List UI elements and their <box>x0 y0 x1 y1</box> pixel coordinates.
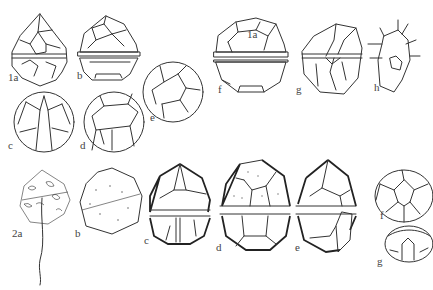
drawing-2e <box>296 160 356 252</box>
drawing-2b <box>80 168 142 234</box>
label-1h: h <box>374 82 380 93</box>
label-2e: e <box>295 242 300 253</box>
label-2g: g <box>377 256 383 267</box>
label-1e: e <box>150 112 155 123</box>
drawing-1g <box>302 24 362 94</box>
label-1f: f <box>218 84 222 95</box>
label-2a: 2a <box>12 228 22 239</box>
label-2c: c <box>144 235 149 246</box>
drawing-1d <box>84 92 144 152</box>
label-1f-plate: 1a <box>247 29 257 40</box>
drawing-1c <box>14 92 74 152</box>
figure-plate: 1a b c d e f 1a g h 2a b c d e f g <box>0 0 433 290</box>
label-2b: b <box>75 228 81 239</box>
label-1g: g <box>296 84 302 95</box>
drawing-1a <box>12 14 67 86</box>
label-1b: b <box>77 70 83 81</box>
drawing-2a <box>20 170 70 285</box>
label-1d: d <box>80 140 86 151</box>
drawing-1b <box>78 16 140 80</box>
drawing-2c <box>150 164 210 244</box>
label-1a: 1a <box>8 72 18 83</box>
label-1c: c <box>8 140 13 151</box>
label-2d: d <box>216 242 222 253</box>
drawing-2g <box>385 226 433 262</box>
label-2f: f <box>380 210 384 221</box>
drawing-2d <box>220 160 290 250</box>
